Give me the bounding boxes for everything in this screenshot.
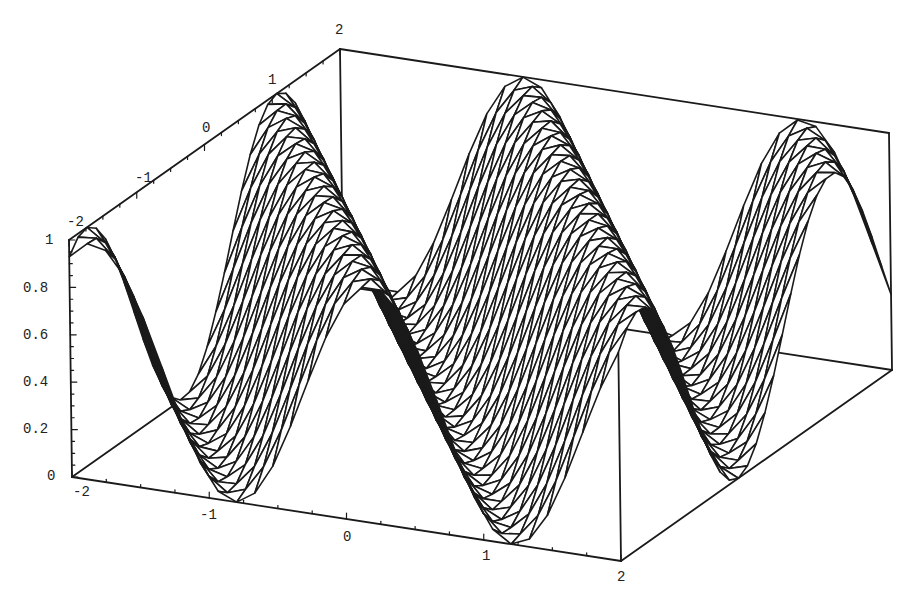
z-axis-tick-label: 0.8: [23, 281, 48, 295]
x-axis-tick-label: -2: [73, 485, 90, 499]
z-axis-tick-label: 0: [47, 469, 55, 483]
z-axis-tick-label: 1: [45, 233, 53, 247]
y-axis-tick-label: 1: [268, 73, 276, 87]
z-axis-tick-label: 0.6: [23, 328, 48, 342]
y-axis-tick-label: 0: [202, 121, 210, 135]
y-axis-tick-label: -1: [135, 171, 152, 185]
x-axis-tick-label: -1: [200, 508, 217, 522]
y-axis-tick-label: 2: [335, 23, 343, 37]
x-axis-tick-label: 0: [343, 530, 351, 544]
z-axis-tick-label: 0.2: [23, 422, 48, 436]
z-axis-tick-label: 0.4: [23, 375, 48, 389]
surface-plot-3d: -2-1012 -2-1012 00.20.40.60.81: [0, 0, 914, 604]
plot-canvas: [0, 0, 914, 604]
y-axis-tick-label: -2: [67, 215, 84, 229]
x-axis-tick-label: 2: [617, 570, 625, 584]
x-axis-tick-label: 1: [482, 549, 490, 563]
wireframe-surface: [69, 77, 891, 544]
